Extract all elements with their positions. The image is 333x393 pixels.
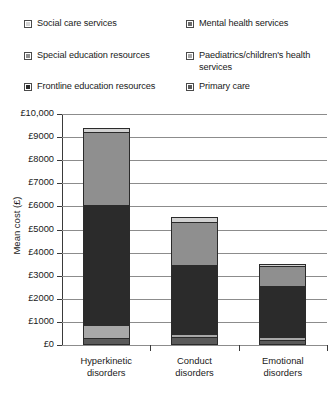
bar-emotional-disorders [259, 264, 306, 345]
y-tick-mark [57, 137, 62, 138]
legend-swatch-paediatrics-childrens-health-services [186, 52, 194, 60]
legend-item-mental-health-services: Mental health services [186, 18, 288, 30]
bar-hyperkinetic-disorders [83, 128, 130, 345]
y-tick-mark [57, 114, 62, 115]
legend-swatch-social-care-services [24, 20, 32, 28]
legend-item-frontline-education-resources: Frontline education resources [24, 81, 155, 93]
legend-item-paediatrics-childrens-health-services: Paediatrics/children's health services [186, 50, 331, 73]
x-axis-tick [239, 345, 240, 351]
bar-segment-special-education-resources [172, 223, 217, 265]
x-axis-label-line: disorders [56, 367, 156, 379]
x-axis-tick [150, 345, 151, 351]
x-axis-label-line: disorders [145, 367, 245, 379]
legend-swatch-primary-care [186, 83, 194, 91]
x-axis-label-line: Hyperkinetic [56, 355, 156, 367]
legend-label: Special education resources [37, 50, 150, 62]
legend-swatch-special-education-resources [24, 52, 32, 60]
y-tick-label: £6000 [28, 200, 54, 210]
y-tick-mark [57, 183, 62, 184]
bar-segment-primary-care [172, 338, 217, 344]
y-tick-mark [57, 230, 62, 231]
x-axis-tick [327, 345, 328, 351]
y-tick-mark [57, 299, 62, 300]
bar-segment-paediatrics-children-s-health-services [84, 326, 129, 340]
bar-segment-frontline-education-resources [84, 206, 129, 326]
y-tick-label: £7000 [28, 177, 54, 187]
legend-label: Primary care [199, 81, 250, 93]
legend-label: Paediatrics/children's health services [199, 50, 331, 73]
legend-item-special-education-resources: Special education resources [24, 50, 150, 62]
bar-conduct-disorders [171, 217, 218, 345]
y-tick-mark [57, 345, 62, 346]
y-tick-mark [57, 206, 62, 207]
y-tick-mark [57, 276, 62, 277]
bar-segment-special-education-resources [260, 267, 305, 286]
legend-label: Mental health services [199, 18, 288, 30]
legend-label: Frontline education resources [37, 81, 155, 93]
y-tick-label: £4000 [28, 247, 54, 257]
bar-segment-primary-care [84, 339, 129, 344]
x-axis-label-conduct-disorders: Conductdisorders [145, 355, 245, 378]
plot-area: £10,000£9000£8000£7000£6000£5000£4000£30… [62, 114, 327, 345]
x-axis-label-line: Emotional [233, 355, 333, 367]
legend-swatch-frontline-education-resources [24, 83, 32, 91]
bar-segment-frontline-education-resources [172, 266, 217, 335]
y-tick-mark [57, 160, 62, 161]
gridline [62, 345, 327, 346]
y-tick-label: £3000 [28, 270, 54, 280]
bar-segment-frontline-education-resources [260, 287, 305, 339]
y-axis-title: Mean cost (£) [11, 166, 22, 286]
y-tick-label: £5000 [28, 224, 54, 234]
y-tick-label: £10,000 [20, 108, 54, 118]
bar-segment-special-education-resources [84, 133, 129, 205]
chart-legend: Social care services Special education r… [0, 0, 333, 104]
legend-swatch-mental-health-services [186, 20, 194, 28]
legend-item-social-care-services: Social care services [24, 18, 117, 30]
x-axis-label-hyperkinetic-disorders: Hyperkineticdisorders [56, 355, 156, 378]
x-axis-label-line: Conduct [145, 355, 245, 367]
chart-area: Mean cost (£) £10,000£9000£8000£7000£600… [0, 104, 333, 393]
x-axis-label-emotional-disorders: Emotionaldisorders [233, 355, 333, 378]
y-tick-mark [57, 322, 62, 323]
x-axis-label-line: disorders [233, 367, 333, 379]
bar-segment-primary-care [260, 341, 305, 344]
x-axis-category-labels: HyperkineticdisordersConductdisordersEmo… [62, 355, 327, 393]
y-tick-label: £0 [44, 339, 54, 349]
legend-label: Social care services [37, 18, 117, 30]
y-tick-label: £9000 [28, 131, 54, 141]
y-tick-label: £8000 [28, 154, 54, 164]
y-tick-label: £2000 [28, 293, 54, 303]
y-tick-label: £1000 [28, 316, 54, 326]
gridline [62, 114, 327, 115]
chart-figure: Social care services Special education r… [0, 0, 333, 393]
y-tick-mark [57, 253, 62, 254]
legend-item-primary-care: Primary care [186, 81, 250, 93]
